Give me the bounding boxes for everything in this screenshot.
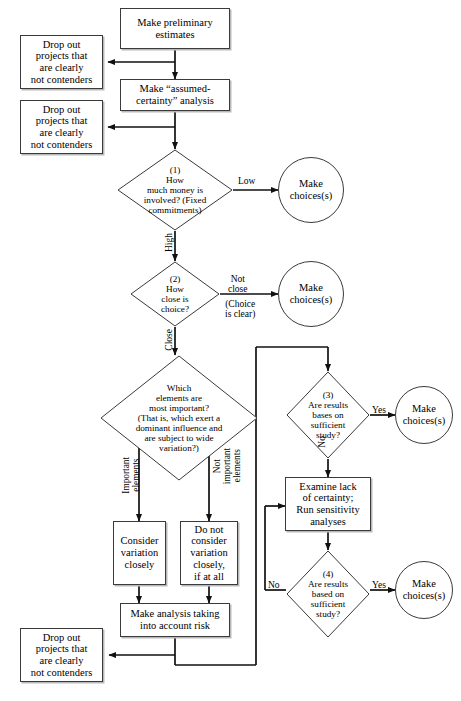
- node-label: Drop outprojects thatare clearlynot cont…: [29, 632, 95, 679]
- node-make-choices-2: Makechoices(s): [278, 261, 344, 327]
- node-decision-4-results-based-on-sufficient-study: (4)Are resultsbased onsufficientstudy?: [286, 550, 370, 638]
- node-label: (3)Are resultsbases onsufficientstudy?: [286, 371, 370, 459]
- node-drop-out-projects-2: Drop outprojects thatare clearlynot cont…: [20, 100, 103, 154]
- node-decision-3-results-bases-on-sufficient-study: (3)Are resultsbases onsufficientstudy?: [286, 371, 370, 459]
- node-label: Make analysis takinginto account risk: [128, 608, 221, 632]
- node-label: Examine lackof certainty;Run sensitivity…: [294, 481, 361, 528]
- node-label: Considervariationclosely: [119, 535, 161, 570]
- node-label: Do notconsidervariationclosely,if at all: [188, 524, 229, 583]
- node-make-choices-3: Makechoices(s): [395, 386, 453, 444]
- node-decision-2-how-close-is-choice: (2)Howclose ischoice?: [130, 261, 220, 327]
- node-drop-out-projects-3: Drop outprojects thatare clearlynot cont…: [20, 628, 103, 682]
- node-label: Makechoices(s): [403, 403, 446, 427]
- node-label: (4)Are resultsbased onsufficientstudy?: [286, 550, 370, 638]
- node-label: Drop outprojects thatare clearlynot cont…: [29, 104, 95, 151]
- edge-label-not-important-elements: Notimportantelements: [213, 448, 242, 484]
- node-label: Make preliminaryestimates: [135, 17, 215, 41]
- flowchart-canvas: Make preliminaryestimates Drop outprojec…: [0, 0, 461, 701]
- node-label: Makechoices(s): [290, 178, 333, 202]
- node-label: Drop outprojects thatare clearlynot cont…: [29, 39, 95, 86]
- node-make-preliminary-estimates: Make preliminaryestimates: [120, 8, 230, 49]
- node-label: Makechoices(s): [290, 282, 333, 306]
- node-label: Make “assumed-certainty” analysis: [134, 83, 216, 107]
- edge-label-not-close: Notclose: [228, 274, 248, 295]
- edge-label-choice-is-clear: (Choiceis clear): [225, 299, 255, 320]
- edge-label-no-4: No: [268, 580, 280, 590]
- node-decision-1-how-much-money: (1)Howmuch money isinvolved? (Fixedcommi…: [117, 149, 233, 231]
- node-do-not-consider-variation: Do notconsidervariationclosely,if at all: [180, 521, 238, 585]
- node-consider-variation-closely: Considervariationclosely: [113, 521, 166, 585]
- edge-label-yes-4: Yes: [372, 580, 386, 590]
- node-drop-out-projects-1: Drop outprojects thatare clearlynot cont…: [20, 35, 103, 89]
- edge-label-high: High: [165, 233, 175, 252]
- edge-label-important-elements: Importantelements: [122, 457, 142, 494]
- node-make-choices-1: Makechoices(s): [278, 157, 344, 223]
- edge-label-low: Low: [238, 176, 255, 186]
- node-label: Makechoices(s): [403, 578, 446, 602]
- node-make-choices-4: Makechoices(s): [395, 561, 453, 619]
- node-label: (1)Howmuch money isinvolved? (Fixedcommi…: [117, 149, 233, 231]
- node-label: (2)Howclose ischoice?: [130, 261, 220, 327]
- edge-label-close: Close: [165, 329, 175, 351]
- edge-label-yes-3: Yes: [372, 405, 386, 415]
- edge-label-no-3: No: [318, 436, 328, 448]
- node-make-analysis-into-account-risk: Make analysis takinginto account risk: [120, 603, 230, 637]
- node-examine-lack-of-certainty: Examine lackof certainty;Run sensitivity…: [285, 477, 371, 531]
- node-make-assumed-certainty-analysis: Make “assumed-certainty” analysis: [120, 79, 230, 111]
